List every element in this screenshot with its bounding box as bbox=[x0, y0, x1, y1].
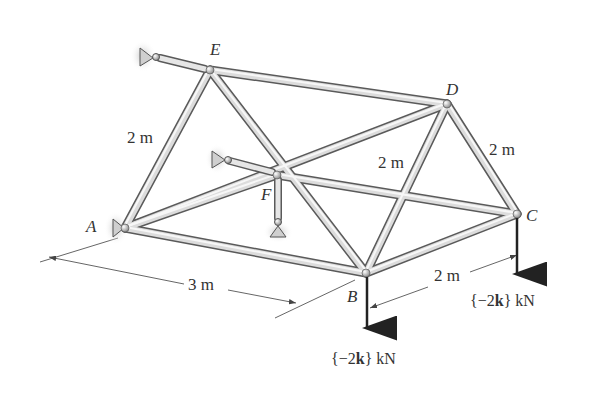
joints bbox=[121, 66, 521, 277]
truss-figure: E D A F B C 2 m 2 m 2 m 3 m 2 m {−2k} kN… bbox=[0, 0, 600, 403]
dim-label-DC: 2 m bbox=[489, 140, 515, 160]
truss-members bbox=[124, 58, 518, 273]
node-label-F: F bbox=[261, 185, 271, 205]
load-label-C: {−2k} kN bbox=[470, 292, 535, 310]
joint-D bbox=[443, 100, 451, 108]
truss-drawing bbox=[0, 0, 600, 403]
joint-E bbox=[206, 66, 214, 74]
joint-C bbox=[513, 210, 521, 218]
node-label-B: B bbox=[347, 287, 357, 307]
node-label-D: D bbox=[446, 80, 458, 100]
joint-F bbox=[273, 171, 281, 179]
node-label-A: A bbox=[86, 217, 96, 237]
load-label-B: {−2k} kN bbox=[331, 350, 396, 368]
node-label-E: E bbox=[210, 40, 220, 60]
dim-label-AB: 3 m bbox=[188, 275, 214, 295]
node-label-C: C bbox=[526, 206, 537, 226]
joint-A bbox=[121, 224, 129, 232]
dim-label-BC: 2 m bbox=[434, 266, 460, 286]
dim-label-BD: 2 m bbox=[378, 153, 404, 173]
joint-B bbox=[362, 269, 370, 277]
dim-label-AE: 2 m bbox=[127, 128, 153, 148]
